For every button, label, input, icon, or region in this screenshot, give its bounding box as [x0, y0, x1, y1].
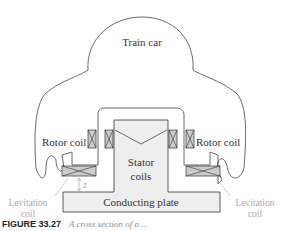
figure-caption: FIGURE 33.27A cross section of a ... — [2, 219, 148, 229]
rotor-coil-right-label: Rotor coil — [196, 136, 240, 148]
rotor-coil-left-label: Rotor coil — [42, 136, 86, 148]
levitation-left-label-1: Levitation — [8, 198, 47, 208]
stator-coil-left — [105, 130, 113, 148]
conducting-plate-label: Conducting plate — [103, 196, 179, 208]
figure-number: FIGURE 33.27 — [2, 219, 61, 229]
rotor-coil-right — [186, 130, 194, 148]
levitation-left-label-2: coil — [21, 209, 36, 219]
levitation-right-label-1: Levitation — [235, 198, 274, 208]
stator-coil-right — [169, 130, 177, 148]
figure-caption-text: A cross section of a ... — [69, 219, 148, 229]
levitation-coil-left — [62, 166, 96, 176]
stator-coils-label-1: Stator — [128, 156, 155, 168]
levitation-right-label-2: coil — [248, 209, 263, 219]
stator-coils-label-2: coils — [131, 170, 152, 182]
maglev-diagram: z Train car Rotor coil Rotor coil Stator… — [0, 0, 284, 231]
levitation-coil-right — [186, 166, 220, 176]
rotor-coil-left — [88, 130, 96, 148]
train-car-label: Train car — [122, 36, 162, 48]
gap-label: z — [82, 180, 87, 190]
gap-arrow — [77, 178, 81, 191]
